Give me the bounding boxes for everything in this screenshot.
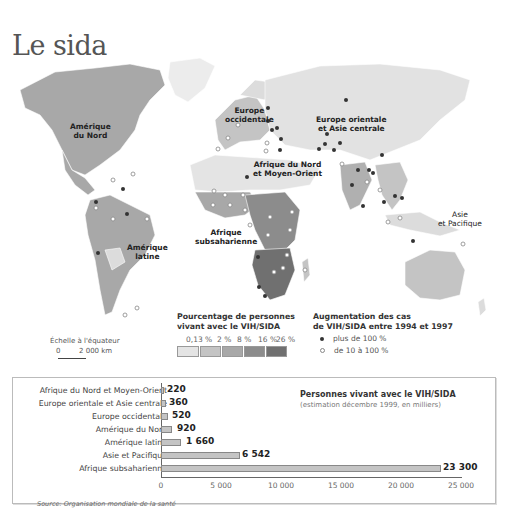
bar [161, 400, 166, 407]
bar-value: 360 [169, 397, 188, 407]
increase-legend-title: Augmentation des cas de VIH/SIDA entre 1… [313, 312, 453, 332]
scale-title: Échelle à l'équateur [50, 337, 120, 345]
prevalence-tick: 0,13 % [186, 335, 212, 344]
filled-dot-icon [320, 337, 324, 341]
scale-bar [58, 358, 86, 359]
prevalence-tick: 2 % [217, 335, 231, 344]
bar-label: Amérique du Nord [96, 425, 167, 434]
region-label-western-europe: Europe occidentale [225, 106, 274, 124]
x-tick: 20 000 [388, 481, 414, 490]
bar [161, 387, 164, 394]
bar [161, 452, 240, 459]
bar-value: 1 660 [186, 436, 214, 446]
chart-title: Personnes vivant avec le VIH/SIDA [300, 390, 456, 399]
bar [161, 426, 172, 433]
bar-label: Europe occidentale [92, 412, 167, 421]
prevalence-color-scale [177, 346, 287, 357]
bar [161, 439, 181, 446]
region-label-sub-saharan-africa: Afrique subsaharienne [195, 228, 257, 246]
source-note: Source: Organisation mondiale de la sant… [37, 500, 176, 508]
bar-value: 520 [172, 410, 191, 420]
prevalence-tick: 16 % [258, 335, 277, 344]
chart-subtitle: (estimation décembre 1999, en milliers) [300, 401, 441, 409]
bar-label: Afrique subsaharienne [79, 464, 167, 473]
bar [161, 465, 441, 472]
bar-label: Amérique latine [105, 438, 167, 447]
prevalence-legend-title: Pourcentage de personnes vivant avec le … [177, 312, 295, 332]
region-label-latin-america: Amérique latine [127, 243, 168, 261]
asia-russia [265, 64, 470, 160]
bar-value: 6 542 [242, 449, 270, 459]
bar-value: 920 [177, 423, 196, 433]
bar-label: Asie et Pacifique [103, 451, 167, 460]
north-america [20, 64, 165, 175]
southeast-asia [375, 162, 408, 210]
x-tick: 0 [159, 481, 164, 490]
swatch-1 [177, 346, 199, 357]
bar-value: 220 [167, 384, 186, 394]
greenland [168, 58, 215, 102]
region-label-eastern-europe-central-asia: Europe orientale et Asie centrale [316, 115, 387, 133]
bar-label: Europe orientale et Asie centrale [39, 399, 167, 408]
swatch-5 [266, 346, 287, 357]
legend-item-filled: plus de 100 % [320, 334, 386, 343]
hollow-dot-icon [320, 348, 325, 353]
x-tick: 10 000 [268, 481, 294, 490]
x-tick: 5 000 [210, 481, 231, 490]
bar-label: Afrique du Nord et Moyen-Orient [40, 386, 167, 395]
x-tick: 25 000 [448, 481, 474, 490]
x-tick: 15 000 [328, 481, 354, 490]
prevalence-tick: 26 % [276, 335, 295, 344]
swatch-4 [244, 346, 265, 357]
scale-zero: 0 [56, 347, 60, 355]
region-label-north-africa-middle-east: Afrique du Nord et Moyen-Orient [253, 160, 322, 178]
x-axis-line [161, 477, 462, 478]
legend-item-hollow: de 10 à 100 % [320, 346, 389, 355]
scale-distance: 2 000 km [79, 347, 112, 355]
new-zealand [478, 298, 486, 316]
prevalence-tick: 8 % [237, 335, 251, 344]
region-label-asia-pacific: Asie et Pacifique [438, 210, 482, 228]
region-label-north-america: Amérique du Nord [70, 122, 111, 140]
bar-value: 23 300 [443, 462, 477, 472]
bar [161, 413, 168, 420]
swatch-3 [222, 346, 243, 357]
swatch-2 [200, 346, 221, 357]
australia [405, 250, 465, 300]
